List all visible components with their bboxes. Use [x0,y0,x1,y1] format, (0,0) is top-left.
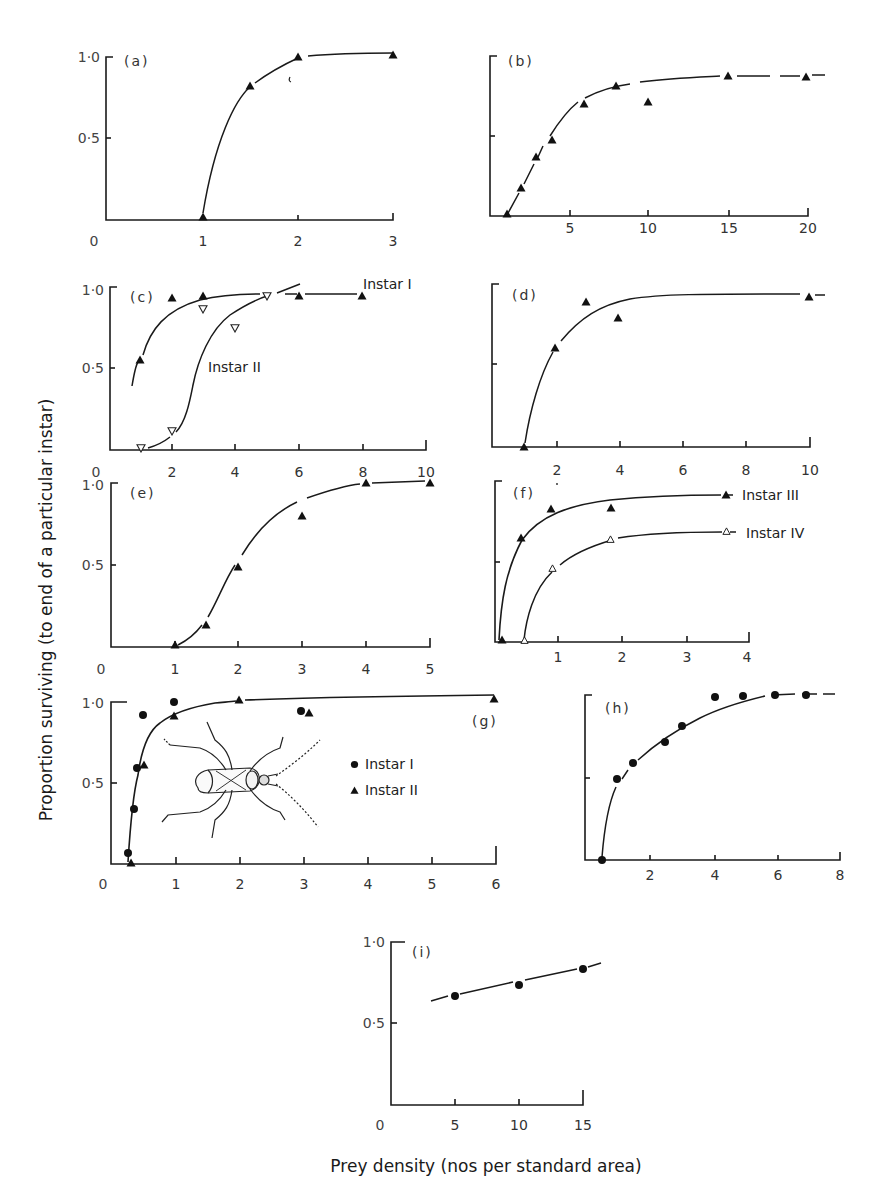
panel-b-axes [490,56,808,216]
svg-text:2: 2 [294,233,303,249]
survival-figure: (a) 1·0 0·5 0 1 2 3 (b) 5 10 15 20 [0,0,887,1202]
panel-e-axes [111,483,430,647]
panel-a [106,53,393,220]
svg-text:6: 6 [679,462,688,478]
panel-d-label: (d) [512,287,538,303]
panel-i-axes [391,942,583,1105]
svg-text:2: 2 [553,462,562,478]
svg-text:1: 1 [171,661,180,677]
svg-text:2: 2 [618,649,627,665]
legend-triangle-icon [350,786,358,793]
svg-text:4: 4 [616,462,625,478]
svg-text:8: 8 [742,462,751,478]
panel-a-ytick-05: 0·5 [78,130,100,146]
panel-d-xticks: 2 4 6 8 10 [553,462,819,478]
panel-b-markers [503,72,811,218]
svg-text:4: 4 [743,649,752,665]
svg-text:3: 3 [300,876,309,892]
panel-i-ytick-1: 1·0 [363,934,385,950]
svg-text:15: 15 [720,220,738,236]
panel-a-ytick-1: 1·0 [78,49,100,65]
panel-f-instar-3-label: Instar III [742,487,799,503]
svg-text:6: 6 [295,464,304,480]
svg-text:1: 1 [554,649,563,665]
panel-h-markers [598,691,810,864]
panel-b-label: (b) [508,53,534,69]
panel-g-markers-instar-2 [127,695,499,867]
panel-c-axes [110,287,426,450]
panel-i-markers [451,965,587,1000]
svg-text:10: 10 [801,462,819,478]
panel-e-xtick-0: 0 [97,661,106,677]
panel-c-xticks: 2 4 6 8 10 [168,464,435,480]
panel-a-axes [106,57,393,220]
panel-g-ytick-1: 1·0 [82,695,104,711]
panel-c-instar-2-label: Instar II [208,359,261,375]
panel-c-ytick-1: 1·0 [82,282,104,298]
svg-text:10: 10 [417,464,435,480]
svg-text:3: 3 [389,233,398,249]
panel-d-axes [492,284,810,447]
svg-text:4: 4 [362,661,371,677]
panel-f-label: (f) [513,485,535,501]
panel-g-xtick-0: 0 [99,876,108,892]
panel-i-ytick-05: 0·5 [363,1015,385,1031]
svg-text:6: 6 [774,867,783,883]
panel-d-markers [520,293,814,451]
svg-text:5: 5 [428,876,437,892]
svg-text:6: 6 [492,876,501,892]
svg-text:20: 20 [799,220,817,236]
panel-f-axes [495,481,749,642]
panel-g-ytick-05: 0·5 [82,775,104,791]
svg-text:5: 5 [451,1117,460,1133]
panel-g-label: (g) [472,713,498,729]
panel-i [391,942,601,1105]
panel-a-xtick-0: 0 [90,233,99,249]
panel-a-label: (a) [124,53,150,69]
panel-e-markers [171,479,435,649]
panel-c-instar-1-label: Instar I [363,276,412,292]
svg-text:5: 5 [566,220,575,236]
svg-text:4: 4 [711,867,720,883]
panel-f-markers-instar-3 [498,491,731,644]
panel-g [111,695,496,864]
panel-i-xtick-0: 0 [376,1117,385,1133]
panel-b-xticks: 5 10 15 20 [566,220,817,236]
svg-text:8: 8 [836,867,845,883]
svg-text:4: 4 [231,464,240,480]
svg-text:4: 4 [364,876,373,892]
panel-f-speck [556,483,558,485]
svg-text:2: 2 [646,867,655,883]
svg-text:2: 2 [168,464,177,480]
panel-f-markers-instar-4 [521,528,730,643]
svg-text:8: 8 [359,464,368,480]
panel-i-label: (i) [412,944,433,960]
panel-c-ytick-05: 0·5 [82,360,104,376]
svg-text:5: 5 [426,661,435,677]
panel-e-xticks: 1 2 3 4 5 [171,661,435,677]
panel-e [111,481,430,647]
panel-e-ytick-1: 1·0 [82,477,104,493]
panel-i-xticks: 5 10 15 [451,1117,592,1133]
svg-text:2: 2 [234,661,243,677]
svg-text:1: 1 [199,233,208,249]
panel-b [490,56,825,216]
panel-h [585,694,840,860]
water-bug-illustration [162,722,320,838]
legend-circle-icon [351,761,358,768]
panel-g-xticks: 1 2 3 4 5 6 [172,876,501,892]
panel-h-label: (h) [605,700,631,716]
svg-text:15: 15 [574,1117,592,1133]
svg-text:3: 3 [683,649,692,665]
svg-text:1: 1 [172,876,181,892]
panel-a-markers [199,51,398,221]
panel-f-xticks: 1 2 3 4 [554,649,752,665]
legend-instar-1: Instar I [365,756,414,772]
panel-c [110,284,426,450]
panel-f-instar-4-label: Instar IV [746,525,805,541]
panel-e-ytick-05: 0·5 [82,557,104,573]
legend-instar-2: Instar II [365,782,418,798]
panel-c-label: (c) [130,289,155,305]
panel-f [495,481,749,642]
panel-g-legend: Instar I Instar II [350,756,417,798]
